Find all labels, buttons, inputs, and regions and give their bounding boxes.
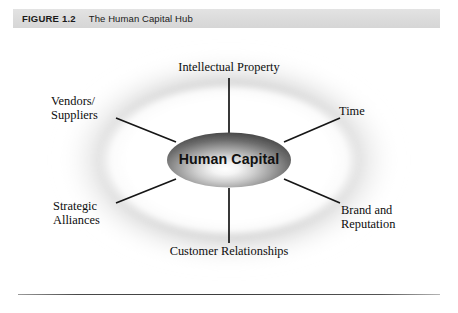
- spoke-label-customer-relationships-line1: Customer Relationships: [0, 245, 458, 259]
- spoke-label-brand-reputation: Brand and Reputation: [341, 204, 395, 231]
- hub-and-spoke-diagram: Human Capital Intellectual Property Cust…: [0, 32, 458, 282]
- spoke-label-vendors-suppliers-line2: Suppliers: [51, 109, 98, 123]
- core-ellipse: [167, 133, 291, 188]
- spoke-label-time-line1: Time: [339, 105, 365, 119]
- spoke-label-brand-reputation-line2: Reputation: [341, 218, 395, 232]
- spoke-label-vendors-suppliers: Vendors/ Suppliers: [51, 95, 98, 122]
- spoke-label-customer-relationships: Customer Relationships: [0, 245, 458, 259]
- spoke-label-brand-reputation-line1: Brand and: [341, 204, 395, 218]
- figure-title-label: The Human Capital Hub: [89, 13, 193, 24]
- spoke-label-vendors-suppliers-line1: Vendors/: [51, 95, 98, 109]
- spoke-label-strategic-alliances-line2: Alliances: [53, 214, 100, 228]
- figure-bottom-rule: [18, 294, 440, 295]
- spoke-label-intellectual-property: Intellectual Property: [0, 61, 458, 75]
- figure-caption-bar: FIGURE 1.2 The Human Capital Hub: [13, 9, 440, 28]
- spoke-label-strategic-alliances-line1: Strategic: [53, 200, 100, 214]
- spoke-label-intellectual-property-line1: Intellectual Property: [0, 61, 458, 75]
- spoke-label-time: Time: [339, 105, 365, 119]
- figure-number-label: FIGURE 1.2: [22, 13, 76, 24]
- spoke-label-strategic-alliances: Strategic Alliances: [53, 200, 100, 227]
